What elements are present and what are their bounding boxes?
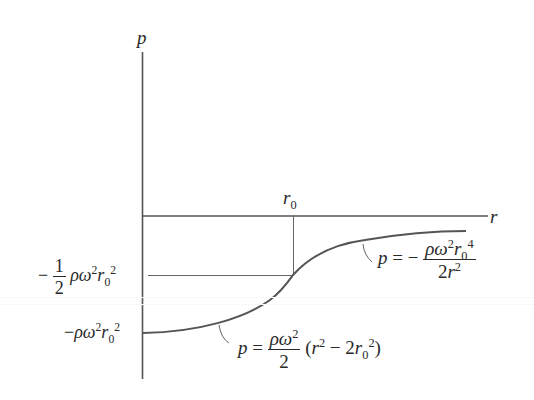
rho-omega: ρω <box>425 238 448 259</box>
outer-region-formula: p = − ρω2r042r2 <box>378 239 476 281</box>
bleed-through-band <box>0 304 534 305</box>
coefficient: 2 <box>438 261 448 282</box>
subscript: 0 <box>104 276 110 289</box>
rho-omega: ρω <box>74 322 95 342</box>
paren-close: ) <box>375 337 381 358</box>
formula-fraction: ρω2r042r2 <box>423 239 475 281</box>
r0-label-sub: 0 <box>290 198 296 212</box>
full-pressure-tick-label: −ρω2r02 <box>64 323 120 341</box>
one-half-fraction: 12 <box>53 257 66 297</box>
r0-tick-label: r0 <box>283 188 297 207</box>
exponent: 2 <box>455 260 461 274</box>
exponent: 2 <box>319 336 325 350</box>
formula-lhs: p <box>378 247 388 268</box>
p-axis-label: p <box>137 28 147 47</box>
formula-fraction: ρω22 <box>268 329 301 371</box>
rho-omega: ρω <box>70 265 91 285</box>
fraction-numerator: 1 <box>53 257 66 276</box>
inner-formula-leader <box>219 325 229 343</box>
equals-sign: = <box>252 337 263 358</box>
minus-sign: − <box>330 337 341 358</box>
outer-formula-leader <box>363 244 372 262</box>
subscript: 0 <box>362 348 368 362</box>
coefficient: 2 <box>345 337 355 358</box>
r-axis-label: r <box>490 207 497 226</box>
rho-omega: ρω <box>270 328 293 349</box>
minus-sign: − <box>64 322 74 342</box>
bleed-through-band <box>0 297 534 298</box>
half-pressure-tick-label: − 12 ρω2r02 <box>38 257 116 297</box>
exponent: 4 <box>467 237 473 251</box>
exponent: 2 <box>114 321 120 334</box>
formula-lhs: p <box>238 337 248 358</box>
radius-symbol: r <box>312 337 319 358</box>
subscript: 0 <box>108 333 114 346</box>
radius-symbol: r <box>447 261 454 282</box>
fraction-numerator: ρω2 <box>268 329 301 349</box>
exponent: 2 <box>110 264 116 277</box>
fraction-denominator: 2 <box>53 276 66 297</box>
minus-sign: − <box>408 247 419 268</box>
exponent: 2 <box>292 327 298 341</box>
fraction-numerator: ρω2r04 <box>423 239 475 259</box>
fraction-denominator: 2 <box>268 349 301 371</box>
equals-sign: = <box>392 247 403 268</box>
minus-sign: − <box>38 265 48 285</box>
inner-region-formula: p = ρω22 (r2 − 2r02) <box>238 329 381 371</box>
fraction-denominator: 2r2 <box>423 259 475 281</box>
